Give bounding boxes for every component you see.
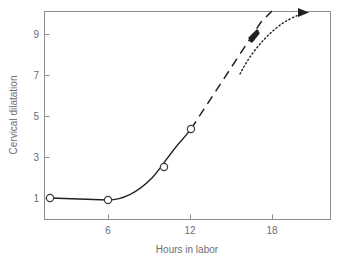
- y-axis-ticks: [45, 35, 50, 199]
- x-tick-label-12: 12: [184, 225, 196, 236]
- data-point-marker: [46, 194, 53, 201]
- x-axis-title: Hours in labor: [156, 244, 219, 255]
- y-tick-label-7: 7: [33, 70, 39, 81]
- y-tick-label-9: 9: [33, 29, 39, 40]
- dotted-arrowhead-icon: [298, 8, 309, 17]
- data-point-marker: [104, 196, 111, 203]
- x-tick-label-18: 18: [266, 225, 278, 236]
- observed-labor-curve: [50, 129, 191, 200]
- projected-active-phase-line: [191, 11, 272, 129]
- chart-figure: 9 7 5 3 1 6 12 18 Hours in labor Cervica…: [0, 0, 341, 261]
- plot-frame: [45, 12, 331, 220]
- x-axis-ticks: [109, 215, 273, 220]
- data-point-marker: [160, 163, 167, 170]
- data-point-marker: [187, 125, 194, 132]
- cervical-dilatation-line-chart: 9 7 5 3 1 6 12 18 Hours in labor Cervica…: [0, 0, 341, 261]
- y-tick-label-3: 3: [33, 152, 39, 163]
- y-tick-label-1: 1: [33, 193, 39, 204]
- y-axis-title: Cervical dilatation: [8, 76, 19, 155]
- y-tick-label-5: 5: [33, 111, 39, 122]
- x-tick-label-6: 6: [105, 225, 111, 236]
- deceleration-phase-curve: [240, 13, 304, 74]
